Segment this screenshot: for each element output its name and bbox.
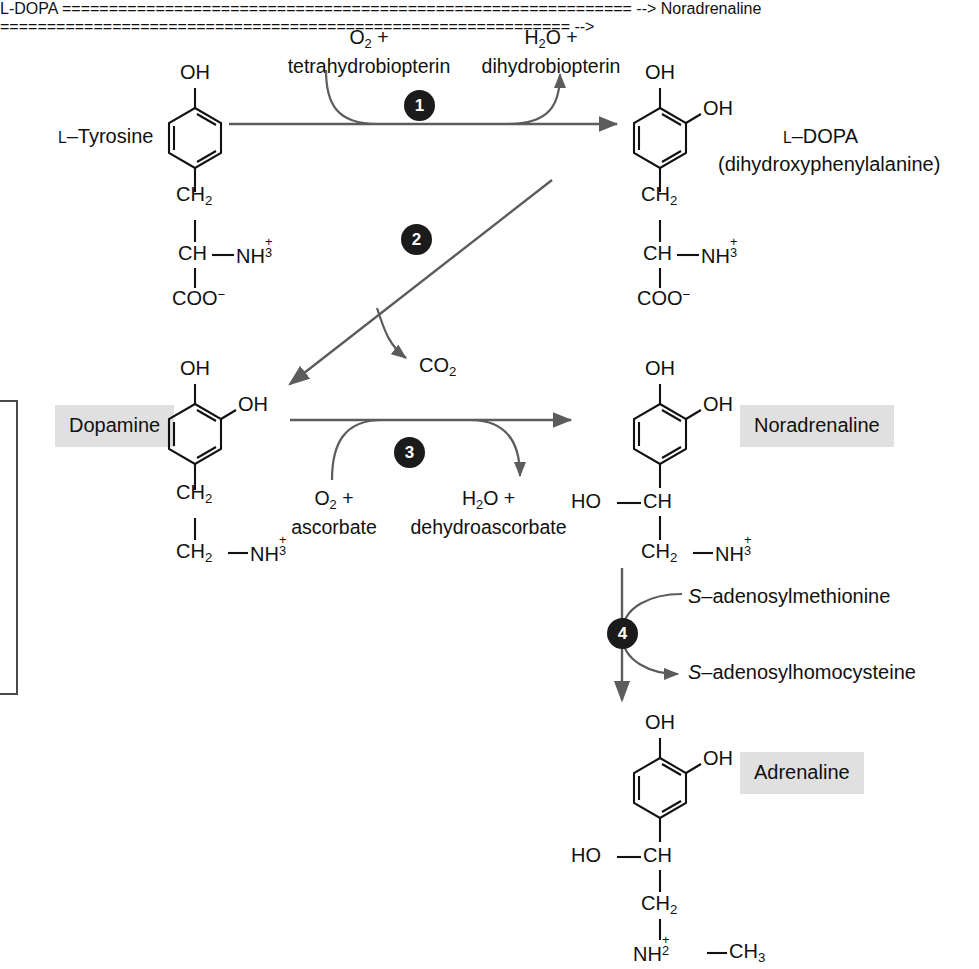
noradrenaline-ch2: CH2: [641, 541, 677, 564]
tyrosine-ch2: CH2: [176, 184, 212, 207]
label-l-dopa: L–DOPA: [783, 125, 858, 148]
step-badge-4: 4: [607, 618, 638, 649]
noradrenaline-ho: HO: [571, 491, 601, 511]
sah-rest: –adenosylhomocysteine: [701, 661, 916, 683]
label-l-tyrosine: L–Tyrosine: [58, 125, 153, 148]
adrenaline-nh2: NH+2: [633, 941, 674, 964]
adrenaline-ho: HO: [571, 845, 601, 865]
dopamine-nh3: NH+3: [250, 541, 291, 564]
step-badge-3: 3: [394, 437, 425, 468]
label-l-dopa-prefix: L: [783, 129, 792, 146]
step3-arrow-group: [288, 412, 583, 490]
step-badge-2: 2: [401, 224, 432, 255]
ldopa-ch2: CH2: [641, 184, 677, 207]
pathway-diagram: L-DOPA =================================…: [0, 0, 979, 969]
step1-substrate-line1: O2 +: [276, 26, 462, 55]
step1-product-label: H2O + dihydrobiopterin: [462, 26, 640, 77]
step-badge-4-number: 4: [618, 625, 627, 642]
label-noradrenaline: Noradrenaline: [740, 405, 894, 447]
step4-product-label: S–adenosylhomocysteine: [688, 661, 916, 684]
side-panel-frame: [0, 400, 18, 695]
step3-substrate-line2: ascorbate: [279, 516, 389, 538]
tyrosine-coo: COO−: [172, 288, 225, 308]
dopamine-ch2-b: CH2: [176, 541, 212, 564]
sah-italic-s: S: [688, 661, 701, 683]
label-l-dopa-full: (dihydroxyphenylalanine): [718, 153, 940, 176]
step-badge-3-number: 3: [405, 444, 414, 461]
step3-product-label: H2O + dehydroascorbate: [396, 487, 581, 538]
step3-product-line2: dehydroascorbate: [396, 516, 581, 538]
adrenaline-ch2: CH2: [641, 893, 677, 916]
step4-substrate-label: S–adenosylmethionine: [688, 585, 890, 608]
step1-product-line1: H2O +: [462, 26, 640, 55]
ldopa-ch: CH: [643, 243, 672, 263]
adrenaline-skeleton: [615, 712, 815, 962]
ldopa-coo: COO−: [637, 288, 690, 308]
step3-product-line1: H2O +: [396, 487, 581, 516]
noradrenaline-nh3: NH+3: [715, 541, 756, 564]
label-adrenaline: Adrenaline: [740, 752, 864, 794]
adrenaline-ch: CH: [643, 845, 672, 865]
label-l-tyrosine-text: L: [58, 129, 67, 146]
step3-substrate-line1: O2 +: [279, 487, 389, 516]
dopamine-ch2-a: CH2: [176, 482, 212, 505]
adrenaline-ch3: CH3: [729, 941, 765, 964]
step-badge-1: 1: [404, 90, 435, 121]
step-badge-1-number: 1: [415, 97, 424, 114]
ldopa-nh3: NH+3: [701, 243, 742, 266]
sam-italic-s: S: [688, 585, 701, 607]
step-badge-2-number: 2: [412, 231, 421, 248]
step2-product-co2: CO2: [419, 355, 456, 378]
sam-rest: –adenosylmethionine: [701, 585, 890, 607]
step3-substrate-label: O2 + ascorbate: [279, 487, 389, 538]
noradrenaline-ch: CH: [643, 491, 672, 511]
step1-substrate-label: O2 + tetrahydrobiopterin: [276, 26, 462, 77]
dopamine-skeleton: [150, 358, 300, 568]
tyrosine-ch: CH: [178, 243, 207, 263]
